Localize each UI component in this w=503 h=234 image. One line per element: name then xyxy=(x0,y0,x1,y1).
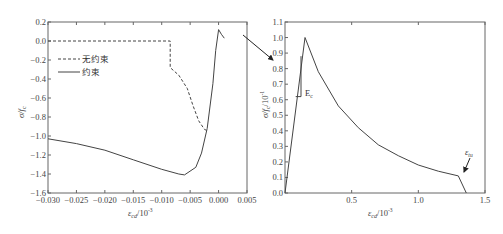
y-tick-label: 0.2 xyxy=(272,157,283,167)
left-x-axis-label: εcd/10-3 xyxy=(128,207,153,219)
legend-label-unconfined: 无约束 xyxy=(82,54,109,64)
y-tick-label: 0.0 xyxy=(35,36,46,46)
annotation-etu: εtu xyxy=(465,147,473,158)
left-data-series xyxy=(48,30,224,175)
right-chart-panel: 0.51.01.5 0.00.10.20.30.40.50.60.70.80.9… xyxy=(259,17,490,219)
x-tick-label: 1.0 xyxy=(413,195,424,205)
left-plot-frame xyxy=(48,22,247,193)
left-x-axis-ticks: −0.030−0.025−0.020−0.015−0.010−0.0050.00… xyxy=(36,22,257,205)
y-tick-label: −1.6 xyxy=(31,188,46,198)
left-y-axis-label: σ/fc xyxy=(16,106,27,118)
right-x-axis-label: εcd/10-3 xyxy=(368,207,393,219)
y-tick-label: 0.9 xyxy=(272,48,283,58)
y-tick-label: −0.6 xyxy=(31,93,46,103)
y-tick-label: −0.2 xyxy=(31,55,46,65)
right-annotations: Ec εtu xyxy=(305,88,473,172)
right-plot-frame xyxy=(285,22,485,193)
x-tick-label: 0.5 xyxy=(346,195,357,205)
y-tick-label: 0.2 xyxy=(35,17,46,27)
y-tick-label: 0.5 xyxy=(272,110,283,120)
y-tick-label: −1.0 xyxy=(31,131,46,141)
x-tick-label: −0.020 xyxy=(93,195,117,205)
y-tick-label: −0.8 xyxy=(31,112,46,122)
y-tick-label: 0.7 xyxy=(272,79,283,89)
y-tick-label: 0.8 xyxy=(272,64,283,74)
y-tick-label: 0.0 xyxy=(272,188,283,198)
series-line-dashed xyxy=(48,41,208,131)
y-tick-label: 0.6 xyxy=(272,95,283,105)
x-tick-label: −0.005 xyxy=(178,195,202,205)
y-tick-label: 0.4 xyxy=(272,126,283,136)
x-tick-label: 0.005 xyxy=(237,195,256,205)
x-tick-label: −0.025 xyxy=(64,195,88,205)
series-line-solid xyxy=(285,38,466,194)
series-line-solid xyxy=(48,30,224,175)
x-tick-label: −0.015 xyxy=(121,195,145,205)
figure: −0.030−0.025−0.020−0.015−0.010−0.0050.00… xyxy=(0,0,503,234)
y-tick-label: 1.0 xyxy=(272,33,283,43)
x-tick-label: 0.000 xyxy=(209,195,228,205)
y-tick-label: 0.3 xyxy=(272,141,283,151)
x-tick-label: 1.5 xyxy=(480,195,491,205)
left-legend: 无约束 约束 xyxy=(58,54,109,77)
y-tick-label: −0.4 xyxy=(31,74,47,84)
y-tick-label: 1.1 xyxy=(272,17,283,27)
right-y-axis-label: σ/fc/10-1 xyxy=(259,91,271,118)
annotation-ec: Ec xyxy=(305,88,313,99)
etu-pointer-arrow xyxy=(464,158,470,172)
right-x-axis-ticks: 0.51.01.5 xyxy=(346,22,490,205)
left-chart-panel: −0.030−0.025−0.020−0.015−0.010−0.0050.00… xyxy=(16,17,257,219)
y-tick-label: −1.4 xyxy=(31,169,47,179)
x-tick-label: −0.010 xyxy=(150,195,174,205)
right-y-axis-ticks: 0.00.10.20.30.40.50.60.70.80.91.01.1 xyxy=(272,17,288,198)
y-tick-label: 0.1 xyxy=(272,172,283,182)
y-tick-label: −1.2 xyxy=(31,150,46,160)
right-data-series xyxy=(285,38,466,194)
legend-label-confined: 约束 xyxy=(82,67,100,77)
